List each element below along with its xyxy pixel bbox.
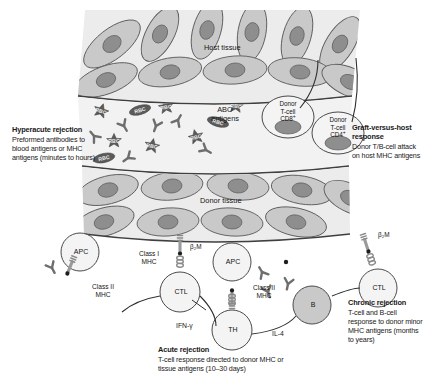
chronic-rejection-heading: Chronic rejection [348, 298, 425, 307]
donor-t-cell-cd8-label: Donor T-cell CD8+ [268, 100, 308, 123]
apc-left-label: APC [70, 248, 92, 255]
host-tissue-band [70, 0, 383, 107]
th-cell-label: TH [223, 326, 243, 333]
b2m-center-label: β₂M [190, 243, 201, 250]
b-cell-label: B [306, 301, 320, 308]
class-ii-mhc-center-line2: MHC [256, 292, 271, 299]
donor-t-cell-cd8-line3: CD8 [280, 115, 293, 122]
acute-rejection-heading: Acute rejection [158, 345, 298, 354]
graft-versus-host-heading: Graft-versus-host response [352, 123, 425, 142]
donor-tissue-label: Donor tissue [200, 196, 242, 205]
chronic-rejection-body: T-cell and B-cell response to donor mino… [348, 308, 425, 344]
host-tissue-label: Host tissue [204, 43, 241, 52]
donor-t-cell-cd8-sup: + [293, 113, 296, 119]
ctl-right-label: CTL [368, 284, 390, 291]
ctl-center-label: CTL [170, 288, 192, 295]
class-ii-mhc-left-line1: Class II [92, 283, 114, 290]
hyperacute-rejection-heading: Hyperacute rejection [12, 125, 98, 134]
donor-t-cell-cd4-sup: + [343, 129, 346, 135]
class-i-mhc-label: Class I MHC [130, 250, 168, 266]
b2m-right-label: β₂M [378, 231, 389, 238]
donor-tissue-band [70, 167, 381, 244]
rbc-label: RBC [105, 138, 123, 144]
class-ii-mhc-left-line2: MHC [95, 291, 110, 298]
class-ii-mhc-left-label: Class II MHC [82, 283, 124, 299]
acute-rejection-body: T-cell response directed to donor MHC or… [158, 355, 298, 373]
acute-rejection-annotation: Acute rejection T-cell response directed… [158, 345, 298, 373]
hyperacute-rejection-body: Preformed antibodies to blood antigens o… [12, 135, 98, 162]
chronic-rejection-annotation: Chronic rejection T-cell and B-cell resp… [348, 298, 425, 344]
hyperacute-rejection-annotation: Hyperacute rejection Preformed antibodie… [12, 125, 98, 162]
rbc-label: RBC [227, 102, 246, 110]
graft-versus-host-annotation: Graft-versus-host response Donor T/B-cel… [352, 123, 425, 160]
antigen-dot [284, 260, 288, 264]
graft-versus-host-body: Donor T/B-cell attack on host MHC antige… [352, 142, 425, 160]
apc-center-label: APC [222, 258, 244, 265]
donor-t-cell-cd4-line3: CD4 [330, 131, 343, 138]
class-i-mhc-line1: Class I [139, 250, 159, 257]
il-4-label: IL-4 [272, 330, 284, 337]
class-ii-mhc-center-line1: Class II [253, 284, 275, 291]
class-i-mhc-line2: MHC [141, 258, 156, 265]
donor-t-cell-cd8-line1: Donor [279, 100, 296, 107]
class-ii-mhc-center-label: Class II MHC [244, 284, 284, 300]
ifn-gamma-label: IFN-γ [176, 322, 193, 329]
donor-t-cell-cd4-line1: Donor [329, 116, 346, 123]
